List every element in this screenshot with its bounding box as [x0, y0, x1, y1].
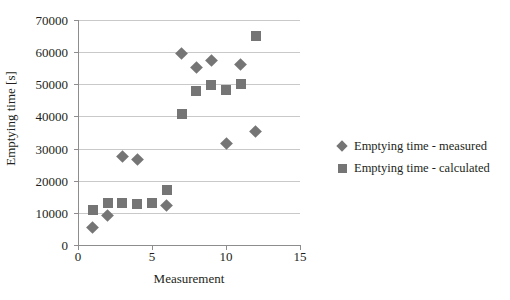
scatter-chart: 010000200003000040000500006000070000 051…: [0, 0, 510, 300]
x-tick-label-0: 0: [58, 250, 98, 263]
data-point: [249, 125, 262, 138]
data-point: [177, 109, 187, 119]
data-point: [205, 54, 218, 67]
data-point: [88, 205, 98, 215]
gridline-y-40000: [78, 116, 300, 117]
y-tick-label-10000: 10000: [0, 207, 68, 220]
gridline-y-20000: [78, 181, 300, 182]
data-point: [147, 198, 157, 208]
data-point: [175, 47, 188, 60]
data-point: [116, 150, 129, 163]
data-point: [221, 85, 231, 95]
data-point: [234, 58, 247, 71]
x-tick-label-15: 15: [280, 250, 320, 263]
x-axis-title: Measurement: [78, 272, 300, 285]
data-point: [132, 199, 142, 209]
plot-area: [78, 20, 300, 245]
legend-label: Emptying time - measured: [354, 140, 487, 153]
gridline-y-50000: [78, 84, 300, 85]
gridline-y-70000: [78, 20, 300, 21]
y-tick-label-70000: 70000: [0, 14, 68, 27]
y-axis-line: [78, 20, 79, 246]
gridline-y-30000: [78, 149, 300, 150]
data-point: [160, 199, 173, 212]
x-tick-label-5: 5: [132, 250, 172, 263]
legend-item: Emptying time - calculated: [336, 157, 506, 179]
data-point: [101, 209, 114, 222]
y-axis-title: Emptying time [s]: [4, 39, 17, 199]
legend-item: Emptying time - measured: [336, 135, 506, 157]
data-point: [206, 80, 216, 90]
data-point: [191, 86, 201, 96]
x-tick-label-10: 10: [206, 250, 246, 263]
x-axis-line: [78, 245, 300, 246]
data-point: [117, 198, 127, 208]
data-point: [236, 79, 246, 89]
data-point: [86, 221, 99, 234]
legend-label: Emptying time - calculated: [354, 162, 490, 175]
diamond-marker-icon: [336, 140, 348, 152]
gridline-y-60000: [78, 52, 300, 53]
data-point: [251, 31, 261, 41]
data-point: [103, 198, 113, 208]
data-point: [190, 61, 203, 74]
chart-legend: Emptying time - measuredEmptying time - …: [336, 135, 506, 179]
data-point: [131, 153, 144, 166]
square-marker-icon: [336, 162, 348, 174]
data-point: [162, 185, 172, 195]
